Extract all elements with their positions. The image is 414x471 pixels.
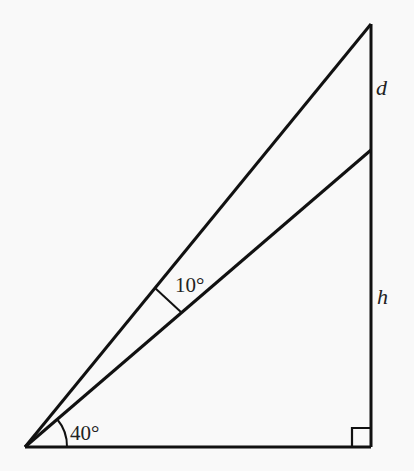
lower-line bbox=[25, 150, 371, 447]
angle-label-40: 40° bbox=[70, 421, 99, 445]
label-d: d bbox=[376, 75, 388, 100]
triangle-diagram: 40° 10° d h bbox=[0, 0, 414, 471]
angle-label-10: 10° bbox=[175, 273, 204, 297]
upper-line bbox=[25, 24, 371, 447]
right-angle-marker bbox=[352, 428, 371, 447]
angle-arc-40 bbox=[57, 419, 67, 447]
label-h: h bbox=[377, 284, 388, 309]
